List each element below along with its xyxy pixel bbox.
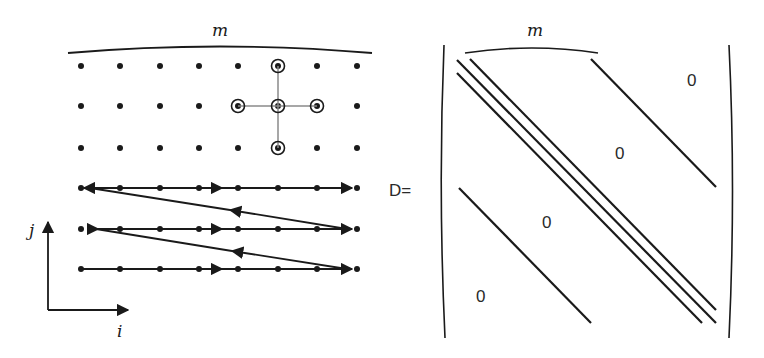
grid-panel: m [25, 20, 372, 341]
j-axis-label: j [25, 220, 35, 240]
figure: m [0, 0, 764, 358]
matrix-panel: D= m 0 0 0 0 [389, 20, 733, 338]
far-super-diagonal [591, 59, 716, 187]
matrix-width-brace [465, 48, 598, 53]
grid-dots-top [78, 63, 360, 151]
super-diagonal [470, 59, 716, 310]
i-axis-label: i [117, 321, 122, 341]
zero-label-lower-mid: 0 [542, 213, 551, 232]
left-bracket [441, 45, 445, 338]
five-point-stencil [232, 60, 324, 155]
matrix-width-label: m [527, 20, 543, 40]
width-brace [68, 47, 372, 54]
main-diagonal [457, 60, 716, 323]
zero-label-lower-left: 0 [476, 287, 485, 306]
sub-diagonal [457, 73, 702, 323]
zero-label-upper-right: 0 [687, 71, 696, 90]
matrix-diagonals [457, 59, 716, 323]
width-label: m [212, 20, 228, 40]
zero-label-upper-mid: 0 [615, 144, 624, 163]
matrix-name: D= [389, 181, 411, 200]
right-bracket [729, 45, 733, 338]
axes: j i [25, 220, 128, 341]
